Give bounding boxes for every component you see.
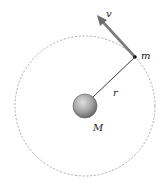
orbiting-mass-point xyxy=(133,55,137,59)
velocity-label: v xyxy=(106,8,112,19)
central-mass-label: M xyxy=(92,122,104,133)
radius-label: r xyxy=(113,87,119,98)
orbit-diagram: v m r M xyxy=(0,0,164,190)
orbiting-mass-label: m xyxy=(141,50,150,61)
velocity-arrow xyxy=(97,15,135,57)
central-mass-sphere xyxy=(73,94,97,118)
